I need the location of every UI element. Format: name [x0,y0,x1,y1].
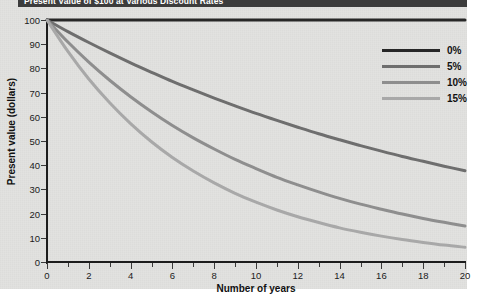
x-axis-tick-minor [110,263,111,267]
x-axis-tick-minor [444,263,445,267]
legend-label: 5% [447,61,461,72]
y-axis-tick-label: 70 [29,87,40,98]
x-axis-tick-label: 2 [86,270,91,281]
legend-swatch [382,49,440,52]
y-axis-tick [41,117,46,118]
x-axis-tick-minor [402,263,403,267]
y-axis-tick [41,141,46,142]
x-axis-tick-label: 0 [44,270,49,281]
y-axis-tick-label: 10 [29,232,40,243]
x-axis-tick-label: 20 [460,270,471,281]
x-axis-tick-major [298,263,299,269]
legend-item: 5% [382,58,467,74]
x-axis-tick-major [89,263,90,269]
legend-swatch [382,65,440,68]
x-axis-tick-minor [361,263,362,267]
x-axis-tick-major [340,263,341,269]
y-axis-tick-label: 100 [24,15,40,26]
x-axis-tick-major [172,263,173,269]
legend-item: 10% [382,74,467,90]
y-axis-tick-label: 60 [29,111,40,122]
legend-label: 15% [447,93,467,104]
y-axis-tick [41,68,46,69]
legend-label: 0% [447,45,461,56]
x-axis-tick-major [465,263,466,269]
figure-header-title: Present Value of $100 at Various Discoun… [24,0,223,6]
x-axis-tick-major [423,263,424,269]
y-axis-tick-label: 80 [29,63,40,74]
x-axis-tick-minor [319,263,320,267]
chart-legend: 0%5%10%15% [382,42,467,106]
legend-label: 10% [447,77,467,88]
x-axis-tick-major [256,263,257,269]
x-axis-tick-major [214,263,215,269]
x-axis-tick-label: 10 [251,270,262,281]
legend-swatch [382,97,440,100]
legend-item: 0% [382,42,467,58]
y-axis-tick [41,238,46,239]
y-axis-tick [41,165,46,166]
x-axis-tick-major [131,263,132,269]
legend-swatch [382,81,440,84]
x-axis-tick-label: 18 [418,270,429,281]
x-axis-tick-major [47,263,48,269]
y-axis-tick-label: 0 [35,257,40,268]
x-axis-tick-minor [277,263,278,267]
y-axis-title: Present value (dollars) [6,47,17,217]
legend-item: 15% [382,90,467,106]
y-axis-tick [41,20,46,21]
y-axis-tick-label: 50 [29,136,40,147]
x-axis-tick-label: 8 [212,270,217,281]
y-axis-tick [41,262,46,263]
y-axis-tick [41,189,46,190]
x-axis-tick-label: 14 [334,270,345,281]
x-axis-tick-label: 12 [293,270,304,281]
x-axis-tick-minor [235,263,236,267]
y-axis-tick-label: 20 [29,208,40,219]
x-axis-tick-label: 4 [128,270,133,281]
x-axis-tick-label: 16 [376,270,387,281]
x-axis-tick-label: 6 [170,270,175,281]
x-axis-tick-minor [68,263,69,267]
y-axis-tick-label: 30 [29,184,40,195]
y-axis-tick [41,44,46,45]
x-axis-tick-minor [193,263,194,267]
y-axis-tick [41,214,46,215]
y-axis-tick [41,93,46,94]
y-axis-tick-label: 90 [29,39,40,50]
y-axis-tick-label: 40 [29,160,40,171]
x-axis-title: Number of years [47,283,465,294]
figure-header-bar: Present Value of $100 at Various Discoun… [18,0,467,7]
chart-page: Present Value of $100 at Various Discoun… [0,0,492,304]
x-axis-tick-minor [152,263,153,267]
x-axis-tick-major [381,263,382,269]
